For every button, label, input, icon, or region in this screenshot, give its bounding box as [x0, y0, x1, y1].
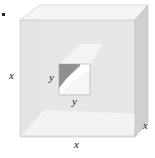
hole-height-label: y	[49, 72, 54, 83]
cube-depth-label: x	[143, 120, 148, 131]
cube-top-face	[20, 5, 148, 20]
cube-width-label: x	[74, 139, 79, 150]
cube-diagram	[0, 0, 155, 158]
hole-width-label: y	[72, 96, 77, 107]
cube-right-face	[135, 5, 148, 137]
cube-back-wall	[40, 6, 148, 120]
cube-height-label: x	[9, 70, 14, 81]
